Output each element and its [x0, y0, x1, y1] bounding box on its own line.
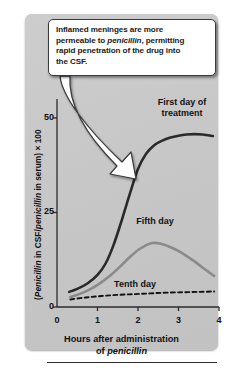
callout-line-2b: , permitting — [141, 36, 184, 45]
y-tick-label: 50 — [36, 112, 54, 122]
y-title-italic-2: penicillin — [33, 193, 43, 229]
y-axis-title: (Penicillin in CSF/penicillin in serum) … — [33, 129, 43, 300]
annotation-callout-text: Inflamed meninges are more permeable to … — [56, 25, 209, 67]
x-title-line2a: of — [96, 346, 107, 356]
series-label-first-day-line2: treatment — [161, 108, 202, 118]
y-title-italic-1: Penicillin — [33, 260, 43, 297]
callout-line-2-italic: penicillin — [107, 36, 141, 45]
x-tick-label: 2 — [129, 315, 147, 325]
x-axis-title: Hours after administration of penicillin — [25, 334, 218, 357]
y-title-paren: ( — [33, 297, 43, 300]
x-tick-label: 0 — [48, 315, 66, 325]
y-tick-label: 0 — [36, 301, 54, 311]
annotation-callout: Inflamed meninges are more permeable to … — [48, 19, 216, 76]
annotation-arrow-icon — [60, 76, 136, 179]
series-label-first-day-line1: First day of — [158, 97, 207, 107]
y-title-end: in serum) × 100 — [33, 129, 43, 193]
x-title-line1: Hours after administration — [64, 334, 179, 344]
curve-tenth-day — [70, 291, 214, 299]
series-label-fifth-day: Fifth day — [128, 216, 182, 227]
series-label-fifth-day-line1: Fifth day — [136, 216, 174, 226]
x-title-line2-italic: penicillin — [107, 346, 147, 356]
callout-line-1: Inflamed meninges are more — [56, 25, 163, 34]
curve-first-day — [69, 134, 213, 292]
y-title-mid: in CSF/ — [33, 229, 43, 260]
series-label-first-day: First day of treatment — [150, 97, 214, 118]
x-tick-label: 3 — [170, 315, 188, 325]
callout-line-4: the CSF. — [56, 57, 87, 66]
series-label-tenth-day-line1: Tenth day — [114, 279, 156, 289]
x-tick-label: 1 — [89, 315, 107, 325]
callout-line-2a: permeable to — [56, 36, 107, 45]
figure-penicillin-csf: Inflamed meninges are more permeable to … — [0, 0, 242, 381]
callout-line-3: rapid penetration of the drug into — [56, 46, 180, 55]
series-label-tenth-day: Tenth day — [107, 279, 163, 290]
x-tick-label: 4 — [210, 315, 228, 325]
bottom-divider — [47, 362, 217, 363]
